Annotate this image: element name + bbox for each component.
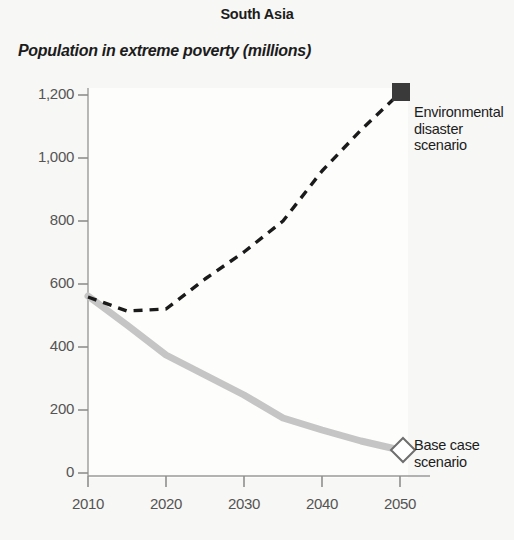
y-tick-label-800: 800 <box>14 211 74 228</box>
y-tick-label-600: 600 <box>14 274 74 291</box>
marker-base-case-diamond <box>391 438 415 462</box>
y-tick-label-0: 0 <box>14 463 74 480</box>
marker-environmental-square <box>392 83 410 101</box>
y-tick-label-1000: 1,000 <box>14 148 74 165</box>
y-tick-label-200: 200 <box>14 400 74 417</box>
x-tick-label-2030: 2030 <box>214 495 274 512</box>
series-label-environmental: Environmental disaster scenario <box>414 104 503 154</box>
x-tick-label-2020: 2020 <box>136 495 196 512</box>
x-tick-label-2050: 2050 <box>370 495 430 512</box>
series-label-base-case: Base case scenario <box>414 437 479 470</box>
x-tick-marks <box>88 476 400 487</box>
series-base-case-line <box>88 296 400 450</box>
y-tick-label-400: 400 <box>14 337 74 354</box>
y-tick-marks <box>78 95 88 473</box>
x-tick-label-2010: 2010 <box>58 495 118 512</box>
series-environmental-line <box>88 93 400 311</box>
chart-container: South Asia Population in extreme poverty… <box>0 0 514 540</box>
y-tick-label-1200: 1,200 <box>14 85 74 102</box>
x-tick-label-2040: 2040 <box>292 495 352 512</box>
